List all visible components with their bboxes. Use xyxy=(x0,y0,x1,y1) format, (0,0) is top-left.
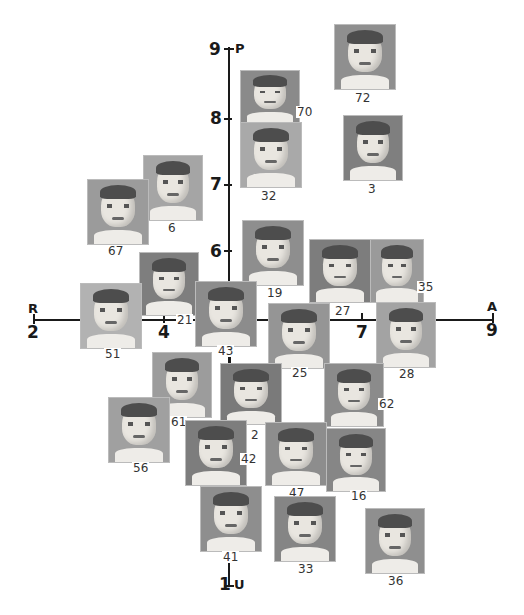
face-photo-36 xyxy=(365,508,425,574)
x-axis-left-letter: R xyxy=(28,302,38,315)
photo-label-43: 43 xyxy=(217,345,234,357)
y-tick-label-7: 7 xyxy=(210,176,222,193)
photo-label-70: 70 xyxy=(296,106,313,118)
y-tick-label-9: 9 xyxy=(209,41,221,58)
photo-label-2: 2 xyxy=(250,429,260,441)
photo-label-72: 72 xyxy=(354,92,371,104)
photo-label-27: 27 xyxy=(334,305,351,317)
photo-label-41: 41 xyxy=(222,551,239,563)
photo-label-67: 67 xyxy=(107,245,124,257)
face-photo-41 xyxy=(200,486,262,552)
photo-label-35: 35 xyxy=(417,281,434,293)
photo-label-62: 62 xyxy=(378,398,395,410)
x-tick-7 xyxy=(361,313,363,321)
x-tick-label-9: 9 xyxy=(486,322,498,339)
face-photo-62 xyxy=(324,363,384,427)
face-photo-56 xyxy=(108,397,170,463)
face-photo-3 xyxy=(343,115,403,181)
x-tick-label-2: 2 xyxy=(27,324,39,341)
face-photo-47 xyxy=(265,422,327,486)
y-tick-8 xyxy=(224,118,232,120)
x-tick-label-4: 4 xyxy=(158,324,170,341)
face-photo-70 xyxy=(240,70,300,124)
photo-label-6: 6 xyxy=(167,222,177,234)
face-photo-43 xyxy=(195,281,257,347)
photo-label-32: 32 xyxy=(260,190,277,202)
x-tick-label-7: 7 xyxy=(356,324,368,341)
face-photo-42 xyxy=(185,420,247,486)
face-photo-25 xyxy=(268,303,330,369)
photo-label-28: 28 xyxy=(398,368,415,380)
photo-label-56: 56 xyxy=(132,462,149,474)
face-photo-27 xyxy=(309,239,371,303)
face-photo-51 xyxy=(80,283,142,349)
face-photo-72 xyxy=(334,24,396,90)
face-photo-19 xyxy=(242,220,304,286)
x-axis-right-letter: A xyxy=(487,300,497,313)
face-photo-35 xyxy=(370,239,424,303)
y-tick-label-8: 8 xyxy=(210,110,222,127)
photo-label-36: 36 xyxy=(387,575,404,587)
photo-label-42: 42 xyxy=(240,453,257,465)
photo-label-21: 21 xyxy=(176,314,193,326)
y-tick-label-6: 6 xyxy=(210,243,222,260)
y-axis-top-letter: P xyxy=(235,42,245,55)
photo-label-51: 51 xyxy=(104,348,121,360)
face-photo-67 xyxy=(87,179,149,245)
y-axis-bottom-letter: U xyxy=(234,578,245,591)
face-photo-33 xyxy=(274,496,336,562)
face-photo-6 xyxy=(143,155,203,221)
face-photo-16 xyxy=(326,428,386,492)
y-tick-9 xyxy=(224,48,234,50)
photo-label-16: 16 xyxy=(350,490,367,502)
photo-label-19: 19 xyxy=(266,287,283,299)
photo-label-3: 3 xyxy=(367,183,377,195)
photo-label-25: 25 xyxy=(291,367,308,379)
face-photo-32 xyxy=(240,122,302,188)
face-photo-28 xyxy=(376,302,436,368)
photo-label-33: 33 xyxy=(297,563,314,575)
y-tick-6 xyxy=(224,250,232,252)
y-tick-7 xyxy=(224,184,232,186)
face-photo-21 xyxy=(139,252,199,316)
face-photo-2 xyxy=(220,363,282,425)
y-tick-label-1: 1 xyxy=(219,576,231,593)
